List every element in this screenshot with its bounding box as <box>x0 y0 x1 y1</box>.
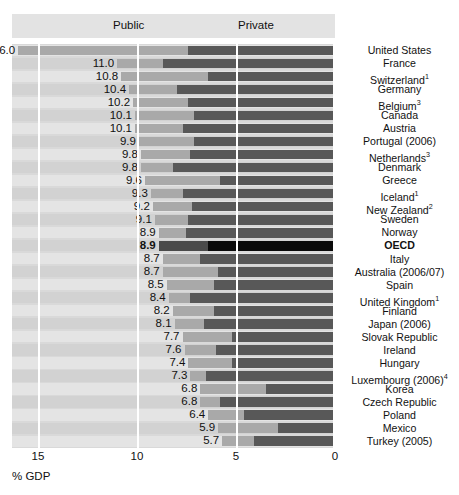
bar-segment-private <box>159 228 187 238</box>
bar-row: 10.4 <box>12 83 335 96</box>
bar-segment-private <box>218 423 277 433</box>
bar-row: 10.1 <box>12 122 335 135</box>
bar-segment-public <box>244 410 335 420</box>
bar-segment-public <box>163 59 335 69</box>
bar-segment-public <box>266 384 335 394</box>
stacked-bar <box>117 59 335 69</box>
bar-value-label: 10.4 <box>104 83 129 97</box>
country-label: Turkey (2005) <box>340 435 459 448</box>
country-label: Japan (2006) <box>340 318 459 331</box>
footnote-marker: 4 <box>444 372 448 381</box>
bar-row: 9.9 <box>12 135 335 148</box>
stacked-bar <box>163 267 335 277</box>
country-label: Luxembourg (2006)4 <box>340 370 459 383</box>
bar-value-label: 9.6 <box>126 174 145 188</box>
bar-segment-private <box>135 124 183 134</box>
axis-title: % GDP <box>12 470 50 482</box>
bar-segment-private <box>139 137 194 147</box>
bar-segment-private <box>185 345 217 355</box>
bar-segment-public <box>183 189 335 199</box>
bar-segment-public <box>214 306 335 316</box>
country-label: Czech Republic <box>340 396 459 409</box>
bar-segment-private <box>163 267 218 277</box>
stacked-bar <box>190 371 335 381</box>
country-label: OECD <box>340 239 459 252</box>
country-labels: United StatesFranceSwitzerland1GermanyBe… <box>340 44 459 448</box>
country-label: Austria <box>340 122 459 135</box>
legend-swatch-private <box>205 21 231 32</box>
bar-row: 9.1 <box>12 213 335 226</box>
bar-row: 8.9 <box>12 239 335 252</box>
country-label: Germany <box>340 83 459 96</box>
bar-segment-public <box>254 436 335 446</box>
country-label: Canada <box>340 109 459 122</box>
bar-segment-private <box>141 150 190 160</box>
stacked-bar <box>200 384 335 394</box>
country-label: Korea <box>340 383 459 396</box>
bar-segment-private <box>117 59 163 69</box>
bar-segment-private <box>159 241 208 251</box>
bar-row: 9.2 <box>12 200 335 213</box>
chart-legend: Public Private <box>12 14 335 38</box>
stacked-bar <box>208 410 335 420</box>
bar-segment-public <box>208 241 335 251</box>
bar-row: 6.8 <box>12 396 335 409</box>
bar-segment-private <box>175 319 205 329</box>
bar-value-label: 6.4 <box>189 408 208 422</box>
bar-segment-private <box>141 163 173 173</box>
bar-segment-private <box>169 293 191 303</box>
stacked-bar <box>121 72 335 82</box>
axis-tick-5: 5 <box>233 450 239 462</box>
bar-value-label: 10.8 <box>96 70 121 84</box>
bar-value-label: 9.3 <box>132 187 151 201</box>
bar-segment-private <box>133 98 188 108</box>
bar-segment-public <box>200 254 335 264</box>
country-label: Greece <box>340 174 459 187</box>
country-label: United States <box>340 44 459 57</box>
bar-segment-private <box>200 397 220 407</box>
country-label: Denmark <box>340 161 459 174</box>
bar-rows: 16.011.010.810.410.210.110.19.99.89.89.6… <box>12 44 335 448</box>
country-label: Spain <box>340 279 459 292</box>
bar-segment-public <box>194 137 335 147</box>
gridline-0 <box>333 44 335 448</box>
stacked-bar <box>222 436 335 446</box>
country-label: Norway <box>340 226 459 239</box>
legend-label-private: Private <box>238 20 274 32</box>
bar-row: 9.8 <box>12 161 335 174</box>
country-label: Hungary <box>340 357 459 370</box>
footnote-marker: 1 <box>425 72 429 81</box>
bar-value-label: 8.1 <box>156 317 175 331</box>
bar-segment-public <box>186 228 334 238</box>
footnote-marker: 1 <box>435 294 439 303</box>
axis-tick-15: 15 <box>32 450 45 462</box>
bar-row: 7.6 <box>12 344 335 357</box>
stacked-bar <box>175 319 335 329</box>
bar-row: 7.4 <box>12 357 335 370</box>
bar-row: 6.8 <box>12 383 335 396</box>
stacked-bar <box>133 98 335 108</box>
country-label: Sweden <box>340 213 459 226</box>
bar-segment-public <box>216 345 335 355</box>
stacked-bar <box>163 254 335 264</box>
stacked-bar <box>153 202 335 212</box>
bar-segment-public <box>188 98 335 108</box>
bar-segment-private <box>173 306 215 316</box>
bar-segment-public <box>183 124 335 134</box>
bar-value-label: 8.5 <box>148 278 167 292</box>
bar-value-label: 6.8 <box>181 382 200 396</box>
bar-value-label: 16.0 <box>0 44 18 58</box>
bar-row: 8.4 <box>12 292 335 305</box>
country-label: Portugal (2006) <box>340 135 459 148</box>
health-expenditure-chart: Public Private 16.011.010.810.410.210.11… <box>0 0 459 495</box>
bar-segment-private <box>190 371 206 381</box>
bar-segment-public <box>204 319 335 329</box>
bar-value-label: 8.7 <box>144 265 163 279</box>
stacked-bar <box>159 228 335 238</box>
stacked-bar <box>169 293 335 303</box>
gridline-5 <box>236 44 238 448</box>
bar-row: 8.2 <box>12 305 335 318</box>
country-label: Australia (2006/07) <box>340 266 459 279</box>
country-label: Italy <box>340 253 459 266</box>
bar-segment-public <box>208 72 335 82</box>
